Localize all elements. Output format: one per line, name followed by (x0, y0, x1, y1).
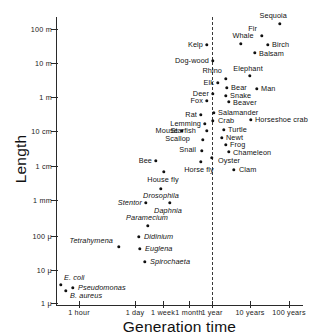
data-point-label: Crab (218, 117, 234, 124)
data-point (200, 149, 203, 152)
data-point-label: House fly (147, 176, 178, 183)
data-point (239, 42, 242, 45)
data-point-label: Elephant (233, 65, 263, 72)
data-point-label: Spirochaeta (150, 258, 190, 265)
data-point (260, 34, 263, 37)
data-point (212, 111, 215, 114)
y-tick-mark (51, 97, 58, 98)
data-point (117, 245, 120, 248)
y-axis-line (56, 17, 57, 305)
data-point (199, 160, 202, 163)
data-point-label: Snail (179, 146, 196, 153)
x-tick-label: 100 years (272, 308, 305, 317)
data-point (224, 77, 227, 80)
data-point (249, 118, 252, 121)
x-tick-mark (163, 301, 164, 308)
data-point (205, 43, 208, 46)
x-tick-label: 1 week (151, 308, 175, 317)
data-point-label: Euglena (145, 245, 172, 252)
data-point (199, 113, 202, 116)
data-point-label: Bee (139, 157, 152, 164)
data-point (154, 159, 157, 162)
data-point-label: Whale (232, 32, 253, 39)
data-point (143, 260, 146, 263)
y-tick-label: 100 μ (0, 232, 52, 241)
data-point-label: Didinium (144, 233, 173, 240)
data-point-label: Oyster (218, 157, 240, 164)
data-point (201, 138, 204, 141)
data-point-label: Sequoia (260, 12, 287, 19)
data-point (205, 99, 208, 102)
data-point-label: Rhino (202, 67, 222, 74)
data-point-label: Clam (239, 166, 256, 173)
data-point-label: Rat (185, 111, 197, 118)
data-point (227, 150, 230, 153)
data-point (144, 201, 147, 204)
data-point (253, 51, 256, 54)
data-point (232, 168, 235, 171)
data-point (266, 43, 269, 46)
data-point-label: Drosophila (143, 192, 179, 199)
data-point (224, 143, 227, 146)
data-point (162, 170, 165, 173)
x-axis-line (56, 305, 303, 306)
data-point (168, 201, 171, 204)
x-tick-label: 1 month (175, 308, 202, 317)
data-point-label: E. coli (64, 274, 85, 281)
y-tick-label: 10 m (0, 59, 52, 68)
data-point (211, 59, 214, 62)
data-point-label: Fox (191, 97, 203, 104)
data-point (222, 128, 225, 131)
data-point (211, 119, 214, 122)
data-point-label: Birch (272, 41, 289, 48)
y-tick-label: 10 μ (0, 266, 52, 275)
x-tick-mark (289, 301, 290, 308)
data-point (159, 187, 162, 190)
y-tick-mark (51, 131, 58, 132)
y-tick-mark (51, 29, 58, 30)
y-tick-label: 1 m (0, 93, 52, 102)
data-point (278, 22, 281, 25)
x-tick-label: 1 hour (68, 308, 90, 317)
data-point (59, 283, 62, 286)
x-tick-mark (189, 301, 190, 308)
data-point-label: Horse fly (184, 166, 214, 173)
data-point (205, 129, 208, 132)
x-tick-mark (79, 301, 80, 308)
y-tick-mark (51, 303, 58, 304)
y-tick-mark (51, 200, 58, 201)
data-point (146, 224, 149, 227)
data-point (227, 100, 230, 103)
x-axis-title: Generation time (56, 318, 303, 336)
data-point-label: Kelp (188, 41, 203, 48)
data-point-label: Paramecium (126, 214, 168, 221)
y-axis-title: Length (12, 114, 30, 204)
data-point-label: Dog-wood (175, 57, 209, 64)
data-point-label: Scallop (165, 135, 190, 142)
x-tick-label: 1 year (201, 308, 222, 317)
data-point (224, 94, 227, 97)
data-point-label: Stentor (118, 199, 142, 206)
data-point-label: Horseshoe crab (255, 116, 308, 123)
x-tick-mark (250, 301, 251, 308)
y-tick-mark (51, 166, 58, 167)
x-tick-mark (135, 301, 136, 308)
y-tick-label: 100 m (0, 25, 52, 34)
data-point-label: Elk (204, 79, 214, 86)
x-tick-label: 1 day (126, 308, 145, 317)
data-point (225, 86, 228, 89)
data-point (203, 122, 206, 125)
data-point-label: Tetrahymena (70, 237, 113, 244)
x-tick-mark (212, 301, 213, 308)
data-point (138, 247, 141, 250)
data-point (64, 289, 67, 292)
y-tick-mark (51, 63, 58, 64)
data-point (220, 136, 223, 139)
data-point (216, 81, 219, 84)
x-tick-label: 10 years (235, 308, 264, 317)
y-tick-mark (51, 236, 58, 237)
data-point-label: Man (261, 85, 276, 92)
data-point (71, 286, 74, 289)
data-point (210, 156, 213, 159)
data-point (211, 92, 214, 95)
